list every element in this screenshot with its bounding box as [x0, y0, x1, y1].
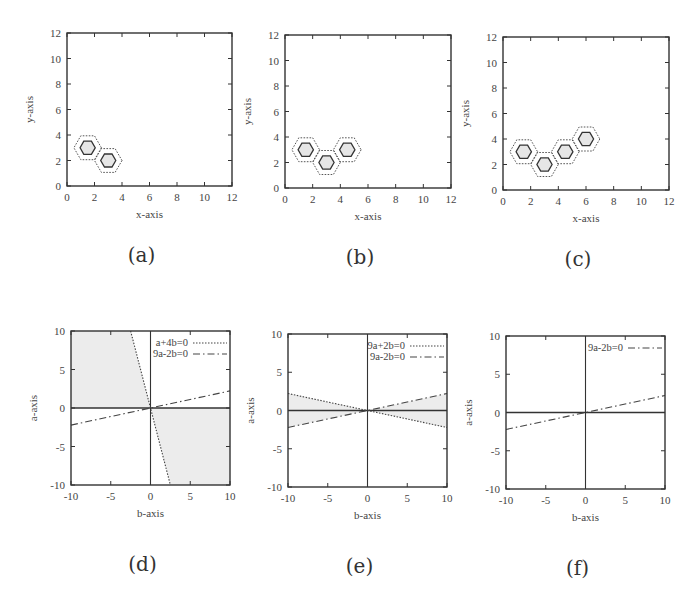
panel-a: 024681012024681012x-axisy-axis(a)	[23, 27, 238, 267]
y-tick-label: 6	[56, 104, 62, 116]
y-tick-label: 2	[56, 155, 62, 167]
shaded-region	[151, 408, 231, 485]
x-tick-label: 8	[611, 195, 617, 207]
y-tick-label: -10	[50, 479, 65, 491]
panel-caption: (d)	[128, 552, 156, 576]
legend-label: a+4b=0	[156, 337, 188, 348]
x-tick-label: 5	[405, 492, 411, 504]
x-tick-label: 2	[310, 193, 316, 205]
y-tick-label: 8	[274, 80, 280, 92]
x-tick-label: 10	[442, 492, 454, 504]
x-axis-label: b-axis	[572, 511, 599, 523]
panel-b: 024681012024681012x-axisy-axis(b)	[241, 29, 457, 269]
x-tick-label: 0	[64, 191, 70, 203]
y-axis-label: y-axis	[241, 98, 253, 125]
y-tick-label: 4	[274, 131, 280, 143]
inner-hexagon	[537, 158, 552, 171]
x-tick-label: 10	[636, 195, 648, 207]
x-tick-label: -10	[499, 494, 514, 506]
y-tick-label: 10	[489, 330, 501, 342]
y-tick-label: 10	[50, 53, 62, 65]
inner-hexagon	[558, 145, 573, 158]
x-tick-label: 2	[92, 191, 98, 203]
inner-hexagon	[101, 154, 116, 167]
y-tick-label: 8	[56, 78, 62, 90]
inner-hexagon	[298, 143, 313, 156]
panel-caption: (a)	[128, 243, 156, 267]
y-tick-label: -5	[491, 445, 501, 457]
x-tick-label: 12	[664, 195, 675, 207]
legend-label: 9a-2b=0	[370, 351, 405, 362]
y-tick-label: -5	[56, 441, 66, 453]
y-tick-label: 0	[60, 402, 66, 414]
x-axis-label: b-axis	[137, 507, 164, 519]
y-tick-label: -5	[273, 443, 283, 455]
y-tick-label: 0	[277, 405, 283, 417]
x-tick-label: 0	[583, 494, 589, 506]
x-tick-label: -5	[106, 490, 116, 502]
plot-frame	[285, 35, 451, 188]
x-axis-label: x-axis	[573, 212, 600, 224]
x-tick-label: -5	[323, 492, 333, 504]
y-tick-label: 12	[486, 31, 497, 43]
x-tick-label: 4	[119, 191, 125, 203]
x-tick-label: 8	[174, 191, 180, 203]
y-tick-label: 2	[492, 159, 498, 171]
x-tick-label: -10	[64, 490, 79, 502]
x-tick-label: 4	[338, 193, 344, 205]
y-tick-label: 6	[492, 108, 498, 120]
x-tick-label: 10	[660, 494, 672, 506]
y-axis-label: y-axis	[23, 96, 35, 123]
legend-label: 9a-2b=0	[588, 342, 623, 353]
y-tick-label: 5	[60, 364, 66, 376]
x-tick-label: 8	[393, 193, 399, 205]
x-tick-label: 0	[282, 193, 288, 205]
y-tick-label: 12	[50, 27, 61, 39]
y-tick-label: 12	[268, 29, 279, 41]
panel-caption: (c)	[565, 247, 592, 271]
y-axis-label: y-axis	[459, 100, 471, 127]
y-tick-label: 10	[54, 325, 66, 337]
x-tick-label: 10	[225, 490, 237, 502]
y-tick-label: 5	[277, 366, 283, 378]
y-tick-label: 0	[274, 182, 280, 194]
y-tick-label: 10	[271, 328, 283, 340]
plot-frame	[503, 37, 669, 190]
figure-stage: 024681012024681012x-axisy-axis(a)0246810…	[0, 0, 699, 604]
panel-c: 024681012024681012x-axisy-axis(c)	[459, 31, 675, 271]
x-tick-label: 6	[147, 191, 153, 203]
x-tick-label: 5	[188, 490, 194, 502]
x-axis-label: b-axis	[354, 509, 381, 521]
x-tick-label: 12	[227, 191, 238, 203]
y-tick-label: 10	[268, 55, 280, 67]
y-axis-label: a-axis	[244, 397, 256, 423]
legend-label: 9a+2b=0	[367, 340, 405, 351]
inner-hexagon	[340, 143, 355, 156]
x-tick-label: 0	[365, 492, 371, 504]
panel-e: -10-50510-10-50510b-axisa-axis9a+2b=09a-…	[244, 328, 453, 578]
x-axis-label: x-axis	[355, 210, 382, 222]
y-tick-label: -10	[485, 483, 500, 495]
plot-frame	[67, 33, 232, 186]
y-tick-label: 0	[492, 184, 498, 196]
figure-canvas: 024681012024681012x-axisy-axis(a)0246810…	[0, 0, 699, 604]
x-tick-label: 4	[556, 195, 562, 207]
y-axis-label: a-axis	[462, 399, 474, 425]
x-tick-label: 10	[199, 191, 211, 203]
shaded-region	[71, 331, 151, 408]
inner-hexagon	[516, 145, 531, 158]
y-tick-label: 8	[492, 82, 498, 94]
x-tick-label: 6	[365, 193, 371, 205]
inner-hexagon	[319, 156, 334, 169]
panel-caption: (f)	[566, 556, 589, 580]
panel-caption: (e)	[346, 554, 373, 578]
y-tick-label: 2	[274, 157, 280, 169]
x-tick-label: 12	[446, 193, 457, 205]
legend-label: 9a-2b=0	[153, 348, 188, 359]
x-tick-label: 5	[623, 494, 629, 506]
y-tick-label: 5	[495, 368, 501, 380]
panel-d: -10-50510-10-50510b-axisa-axisa+4b=09a-2…	[27, 325, 236, 576]
panel-f: -10-50510-10-50510b-axisa-axis9a-2b=0(f)	[462, 330, 671, 580]
inner-hexagon	[80, 141, 95, 154]
y-tick-label: 10	[486, 57, 498, 69]
